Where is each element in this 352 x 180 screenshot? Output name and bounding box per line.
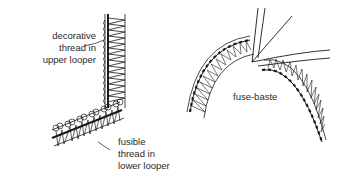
label-line: thread in [18,42,96,54]
lower-serged-edge [52,99,124,146]
label-fuse-baste: fuse-baste [233,91,277,103]
label-fusible-thread: fusible thread in lower looper [118,136,188,172]
arched-serged-edge [187,36,326,142]
label-line: fusible [118,136,188,148]
label-decorative-thread: decorative thread in upper looper [18,30,96,66]
leader-fusible [98,142,110,150]
vertical-serged-edge [104,14,126,110]
label-line: thread in [118,148,188,160]
label-line: decorative [18,30,96,42]
sewing-diagram: decorative thread in upper looper fusibl… [0,0,352,180]
label-line: lower looper [118,160,188,172]
fabric-corner [252,8,330,66]
label-line: upper looper [18,54,96,66]
